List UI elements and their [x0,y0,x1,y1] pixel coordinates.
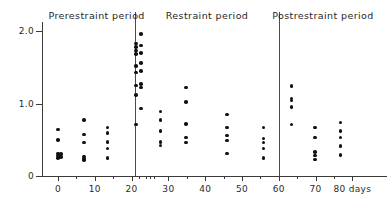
x-axis-line [42,176,387,177]
data-point [59,155,63,159]
x-tick-mark-minor [297,176,298,179]
data-point [262,141,266,145]
data-point [106,131,110,135]
y-tick-label-wrap: 0 [0,171,34,181]
data-point [139,32,143,36]
x-tick-mark [316,176,317,181]
data-point [225,134,229,138]
y-tick-label: 1.0 [8,99,34,109]
x-tick-mark-minor [187,176,188,179]
data-point [313,136,317,140]
data-point [139,51,143,55]
data-point [225,152,229,156]
data-point [56,128,60,132]
data-point [134,84,138,88]
x-tick-mark-minor [154,176,155,179]
data-point [184,122,188,126]
data-point [290,105,294,109]
data-point [184,100,188,104]
data-point [134,71,138,75]
y-axis-line [42,22,43,176]
period-label: Prerestraint period [48,10,144,21]
data-point [262,137,266,141]
data-point [82,158,86,162]
data-point [225,126,229,130]
x-tick-mark-minor [76,176,77,179]
data-point [262,126,266,130]
data-point [159,110,163,114]
x-tick-label: 70 [310,184,322,194]
x-tick-mark [352,176,353,181]
data-point [313,154,317,158]
data-point [313,158,317,162]
data-point [262,156,266,160]
x-tick-label: 60 [273,184,285,194]
data-point [134,123,138,127]
data-point [339,153,343,157]
data-point [339,129,343,133]
data-point [134,93,138,97]
data-point [139,86,143,90]
y-tick-mark [36,104,42,105]
data-point [134,64,138,68]
data-point [159,118,163,122]
y-tick-label: 0 [8,171,34,181]
data-point [134,52,138,56]
data-point [313,126,317,130]
x-tick-mark-minor [224,176,225,179]
data-point [290,123,294,127]
restraint-postrestraint-divider [279,12,280,176]
data-point [290,99,294,103]
data-point [159,144,163,148]
data-point [82,141,86,145]
x-tick-label: 50 [236,184,248,194]
x-tick-mark [242,176,243,181]
period-label: Restraint period [166,10,249,21]
x-tick-mark [58,176,59,181]
x-tick-mark [95,176,96,181]
data-point [139,107,143,111]
data-point [339,121,343,125]
x-tick-mark-minor [260,176,261,179]
data-point [139,61,143,65]
x-tick-mark-minor [139,176,140,179]
data-point [139,44,143,48]
x-tick-mark-minor [146,176,147,179]
y-tick-mark [36,31,42,32]
data-point [225,113,229,117]
y-tick-mark [36,176,42,177]
data-point [159,129,163,133]
x-tick-mark-minor [113,176,114,179]
plot-area: 01.02.0 01020304050607080 days Prerestra… [0,0,392,205]
data-point [184,86,188,90]
scatter-plot-figure: 01.02.0 01020304050607080 days Prerestra… [0,0,392,205]
data-point [290,84,294,88]
x-tick-label: 80 days [334,184,372,194]
x-tick-mark [168,176,169,181]
x-tick-mark [132,176,133,181]
x-tick-mark [205,176,206,181]
data-point [139,69,143,73]
x-tick-label: 20 [126,184,138,194]
data-point [262,147,266,151]
period-label: Postrestraint period [272,10,374,21]
x-tick-label: 0 [55,184,61,194]
data-point [225,139,229,143]
y-tick-label-wrap: 2.0 [0,26,34,36]
x-tick-label: 10 [89,184,101,194]
x-tick-mark-minor [150,176,151,179]
y-tick-label-wrap: 1.0 [0,99,34,109]
x-tick-label: 40 [199,184,211,194]
data-point [184,141,188,145]
data-point [106,140,110,144]
data-point [339,144,343,148]
x-tick-mark-minor [334,176,335,179]
data-point [82,118,86,122]
data-point [82,133,86,137]
data-point [56,138,60,142]
data-point [184,136,188,140]
x-tick-label: 30 [162,184,174,194]
x-tick-mark [279,176,280,181]
data-point [106,147,110,151]
data-point [339,136,343,140]
